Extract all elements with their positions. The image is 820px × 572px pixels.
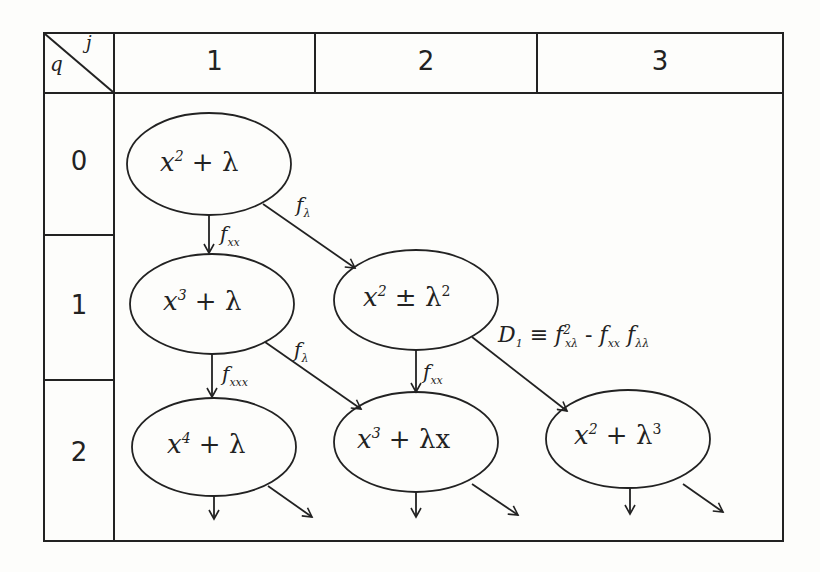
- edge-label-d1-formula: D1 ≡ f2xλ - fxx fλλ: [498, 322, 649, 350]
- corner-row-var: q: [50, 52, 63, 76]
- node-n22: x3 + λx: [357, 424, 450, 454]
- edge-n11-n22: [265, 342, 361, 409]
- edge-n21-diag: [268, 486, 312, 517]
- edge-label-n00-n11: fxx: [220, 222, 240, 249]
- node-n21: x4 + λ: [167, 429, 245, 459]
- edge-label-n00-n12: fλ: [296, 193, 310, 220]
- node-n00: x2 + λ: [160, 147, 238, 177]
- edge-label-n11-n21: fxxx: [222, 362, 248, 389]
- col-header-3: 3: [537, 46, 783, 76]
- edge-label-n12-n22: fxx: [423, 360, 443, 387]
- edge-n22-diag: [472, 484, 518, 515]
- edge-label-n11-n22: fλ: [294, 338, 308, 365]
- col-header-2: 2: [315, 46, 537, 76]
- edge-n23-diag: [683, 484, 723, 512]
- node-n23: x2 + λ3: [574, 420, 661, 450]
- node-n12: x2 ± λ2: [363, 282, 450, 312]
- row-header-2: 2: [44, 437, 114, 467]
- node-n11: x3 + λ: [163, 286, 241, 316]
- row-header-0: 0: [44, 146, 114, 176]
- col-header-1: 1: [114, 46, 315, 76]
- row-header-1: 1: [44, 290, 114, 320]
- corner-col-var: j: [86, 32, 92, 53]
